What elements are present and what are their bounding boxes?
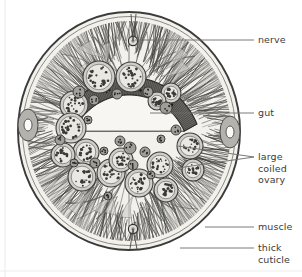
- label-gut: gut: [258, 107, 274, 119]
- excretory-canal: [226, 126, 234, 138]
- ovary-section-small: [70, 159, 78, 167]
- ovary-section-small: [73, 86, 85, 98]
- label-muscle-line-0: muscle: [258, 221, 293, 233]
- ovary-section-small: [89, 95, 99, 105]
- ovary-section-small: [112, 89, 122, 99]
- lateral-cord-right: [220, 116, 240, 148]
- ovary-section-small: [84, 116, 92, 124]
- ovary-section-small: [55, 135, 65, 145]
- ovary-section-small: [128, 160, 138, 170]
- ovary-section: [83, 61, 115, 93]
- ovary-section-small: [171, 125, 181, 135]
- ovary-section-small: [124, 142, 136, 154]
- label-thick-cuticle-line-0: thick: [258, 242, 302, 254]
- ovary-section-small: [104, 192, 112, 200]
- label-large-coiled-ovary-line-1: coiled: [258, 163, 302, 175]
- nematode-cross-section-figure: nervegutlargecoiledovarymusclethickcutic…: [0, 0, 302, 277]
- ovary-section: [182, 159, 204, 181]
- ovary-section-small: [147, 171, 155, 179]
- ovary-section-small: [143, 87, 153, 97]
- ovary-section-small: [140, 147, 150, 157]
- ovary-section: [154, 178, 178, 202]
- ovary-section: [116, 62, 146, 92]
- label-large-coiled-ovary-line-0: large: [258, 151, 302, 163]
- ovary-section-small: [115, 136, 125, 146]
- ovary-section-small: [100, 147, 108, 155]
- label-thick-cuticle: thickcuticle: [258, 242, 302, 265]
- label-large-coiled-ovary-line-2: ovary: [258, 174, 302, 186]
- label-muscle: muscle: [258, 221, 293, 233]
- label-nerve-line-0: nerve: [258, 34, 286, 46]
- ovary-section-small: [90, 158, 100, 168]
- label-thick-cuticle-line-1: cuticle: [258, 254, 302, 266]
- ovary-section-small: [157, 135, 165, 143]
- excretory-canal: [24, 119, 32, 131]
- lateral-cord-left: [18, 109, 38, 141]
- ovary-section-small: [160, 102, 172, 114]
- label-gut-line-0: gut: [258, 107, 274, 119]
- label-large-coiled-ovary: largecoiledovary: [258, 151, 302, 186]
- label-nerve: nerve: [258, 34, 286, 46]
